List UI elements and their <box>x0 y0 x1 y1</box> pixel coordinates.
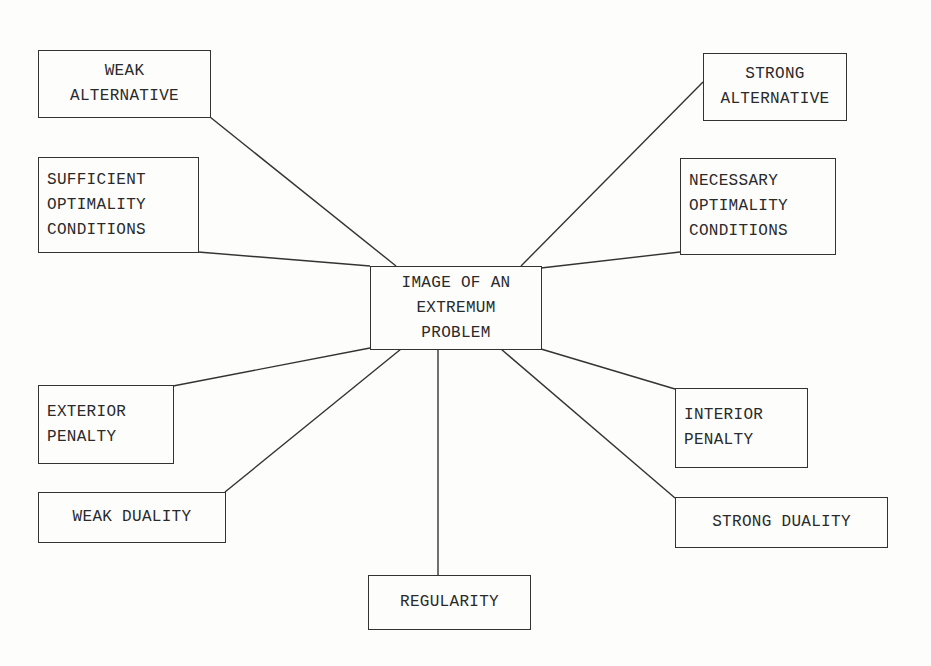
edge-interior-penalty <box>541 349 675 389</box>
node-necessary-optimality-conditions: NECESSARY OPTIMALITY CONDITIONS <box>680 158 836 255</box>
edge-necessary-optimality <box>541 252 680 268</box>
node-label-line: NECESSARY <box>689 169 778 194</box>
node-label-line: INTERIOR <box>684 403 763 428</box>
node-label-line: CONDITIONS <box>689 219 788 244</box>
node-label-line: REGULARITY <box>400 590 499 615</box>
node-label-line: EXTERIOR <box>47 400 126 425</box>
node-weak-duality: WEAK DUALITY <box>38 492 226 543</box>
node-label-line: STRONG DUALITY <box>712 510 851 535</box>
edge-weak-alternative <box>210 117 396 266</box>
center-label-line: IMAGE OF AN <box>402 271 511 296</box>
node-exterior-penalty: EXTERIOR PENALTY <box>38 385 174 464</box>
node-label-line: CONDITIONS <box>47 218 146 243</box>
node-label-line: STRONG <box>745 62 804 87</box>
node-interior-penalty: INTERIOR PENALTY <box>675 388 808 468</box>
node-weak-alternative: WEAK ALTERNATIVE <box>38 50 211 118</box>
edge-strong-alternative <box>521 82 703 266</box>
node-regularity: REGULARITY <box>368 575 531 630</box>
node-label-line: ALTERNATIVE <box>721 87 830 112</box>
node-label-line: ALTERNATIVE <box>70 84 179 109</box>
node-strong-alternative: STRONG ALTERNATIVE <box>703 53 847 121</box>
edge-exterior-penalty <box>173 348 370 386</box>
node-center-image-of-extremum-problem: IMAGE OF AN EXTREMUM PROBLEM <box>370 266 542 350</box>
node-label-line: OPTIMALITY <box>689 194 788 219</box>
node-label-line: PENALTY <box>47 425 116 450</box>
edge-sufficient-optimality <box>198 252 370 266</box>
node-label-line: PENALTY <box>684 428 753 453</box>
edge-strong-duality <box>501 349 675 498</box>
node-strong-duality: STRONG DUALITY <box>675 497 888 548</box>
node-label-line: OPTIMALITY <box>47 193 146 218</box>
center-label-line: EXTREMUM <box>416 296 495 321</box>
node-sufficient-optimality-conditions: SUFFICIENT OPTIMALITY CONDITIONS <box>38 157 199 253</box>
node-label-line: SUFFICIENT <box>47 168 146 193</box>
node-label-line: WEAK DUALITY <box>73 505 192 530</box>
node-label-line: WEAK <box>105 59 145 84</box>
center-label-line: PROBLEM <box>421 321 490 346</box>
